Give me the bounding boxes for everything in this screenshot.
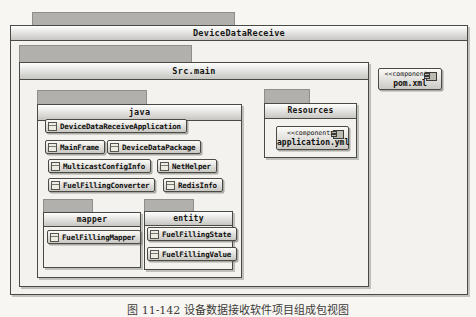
- component-icon: [333, 130, 344, 139]
- class-mainframe: MainFrame: [45, 140, 105, 154]
- class-fuelfillingconverter: FuelFillingConverter: [48, 178, 155, 192]
- class-label: DeviceDataReceiveApplication: [60, 122, 181, 131]
- class-icon: [48, 143, 57, 152]
- class-devicedatareceiveapplication: DeviceDataReceiveApplication: [45, 119, 187, 133]
- class-label: RedisInfo: [178, 181, 217, 190]
- package-title-srcmain: Src.main: [20, 63, 368, 80]
- package-title-devicedatareceive: DeviceDataReceive: [11, 26, 467, 41]
- class-label: DeviceDataPackage: [122, 143, 195, 152]
- package-tab-mapper: [43, 199, 93, 212]
- class-fuelfillingstate: FuelFillingState: [147, 227, 237, 241]
- class-icon: [48, 122, 57, 131]
- figure-caption: 图 11-142 设备数据接收软件项目组成包视图: [0, 301, 476, 317]
- class-multicastconfiginfo: MulticastConfigInfo: [48, 159, 151, 173]
- package-title-mapper: mapper: [44, 213, 140, 227]
- package-tab-srcmain: [19, 45, 192, 62]
- class-icon: [50, 233, 59, 242]
- class-label: MulticastConfigInfo: [63, 162, 145, 171]
- class-icon: [160, 162, 169, 171]
- component-name: application.yml: [277, 138, 348, 147]
- component-icon: [426, 72, 437, 81]
- package-tab-entity: [144, 199, 194, 211]
- class-label: FuelFillingConverter: [63, 181, 149, 190]
- component-pom-xml: <<component>> pom.xml: [378, 68, 442, 90]
- class-label: NetHelper: [172, 162, 211, 171]
- class-nethelper: NetHelper: [157, 159, 217, 173]
- class-fuelfillingvalue: FuelFillingValue: [147, 247, 237, 261]
- class-fuelfillingmapper: FuelFillingMapper: [47, 230, 141, 244]
- class-icon: [150, 250, 159, 259]
- class-label: FuelFillingMapper: [62, 233, 135, 242]
- package-title-resources: Resources: [265, 104, 356, 119]
- class-icon: [51, 162, 60, 171]
- package-tab-resources: [264, 89, 310, 103]
- class-label: FuelFillingState: [162, 230, 231, 239]
- class-label: FuelFillingValue: [162, 250, 231, 259]
- class-icon: [110, 143, 119, 152]
- package-tab-java: [37, 90, 147, 104]
- class-label: MainFrame: [60, 143, 99, 152]
- component-application-yml: <<component>> application.yml: [276, 126, 349, 150]
- class-redisinfo: RedisInfo: [163, 178, 223, 192]
- package-title-entity: entity: [145, 212, 232, 226]
- class-icon: [166, 181, 175, 190]
- class-icon: [51, 181, 60, 190]
- class-icon: [150, 230, 159, 239]
- class-devicedatapackage: DeviceDataPackage: [107, 140, 201, 154]
- package-tab-devicedatareceive: [32, 12, 235, 25]
